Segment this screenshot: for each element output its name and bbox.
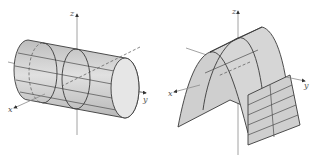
parabolic-cylinder-figure: z x y (168, 7, 309, 155)
cylinder-figure: z x y (8, 9, 148, 135)
z-label: z (231, 7, 237, 16)
z-label: z (69, 9, 75, 18)
cylinder-end-cap (111, 58, 139, 118)
y-label: y (142, 95, 148, 104)
x-label: x (8, 105, 13, 114)
y-axis (139, 92, 146, 93)
figure-canvas: z x y z x y (0, 0, 315, 163)
y-label: y (303, 81, 309, 90)
x-label: x (168, 89, 173, 98)
